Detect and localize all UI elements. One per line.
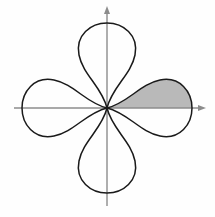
- x-axis-arrowhead: [198, 105, 206, 111]
- figure-container: Four-petaled rose curve with shaded regi…: [0, 0, 215, 217]
- y-axis-arrowhead: [104, 6, 110, 14]
- polar-rose-plot: [0, 0, 215, 217]
